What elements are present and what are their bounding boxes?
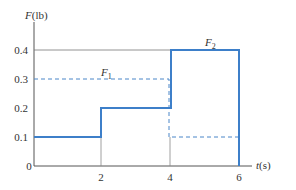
x-axis-label: t(s) bbox=[256, 159, 271, 172]
x-tick-2: 2 bbox=[98, 171, 104, 183]
y-tick-0.4: 0.4 bbox=[14, 44, 28, 56]
y-tick-0.2: 0.2 bbox=[14, 102, 28, 114]
series-f2-line bbox=[34, 50, 239, 166]
y-tick-0.1: 0.1 bbox=[14, 131, 28, 143]
x-tick-6: 6 bbox=[236, 171, 242, 183]
y-tick-0.3: 0.3 bbox=[14, 73, 28, 85]
y-axis-label: F(lb) bbox=[24, 9, 48, 22]
series-f2-label: F2 bbox=[204, 36, 216, 51]
force-time-chart: 0.4 0.3 0.2 0.1 0 2 4 6 F(lb) t(s) F1 F2 bbox=[0, 0, 296, 190]
origin-label: 0 bbox=[26, 160, 32, 172]
x-tick-4: 4 bbox=[167, 171, 173, 183]
